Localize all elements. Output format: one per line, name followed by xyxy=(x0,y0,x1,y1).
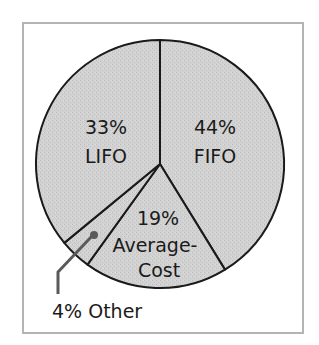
average-cost-name-label-1: Average- xyxy=(113,234,198,256)
average-cost-percent-label: 19% xyxy=(137,207,179,229)
average-cost-name-label-2: Cost xyxy=(138,259,180,281)
fifo-percent-label: 44% xyxy=(194,116,236,138)
other-label: 4% Other xyxy=(52,300,142,322)
pie-chart: 33% LIFO 44% FIFO 19% Average- Cost 4% O… xyxy=(0,0,319,345)
fifo-name-label: FIFO xyxy=(194,145,236,167)
other-callout-dot xyxy=(90,231,98,239)
lifo-name-label: LIFO xyxy=(85,145,127,167)
lifo-percent-label: 33% xyxy=(85,116,127,138)
